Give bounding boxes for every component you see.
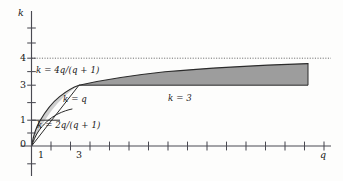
y-tick-label-4: 4: [20, 53, 26, 63]
x-tick-label-1: 1: [38, 150, 44, 160]
plot-canvas: [0, 0, 343, 181]
y-axis-label: k: [18, 8, 24, 18]
annotation-upper-curve: k = 4q/(q + 1): [36, 66, 99, 75]
x-tick-label-3: 3: [76, 150, 82, 160]
x-axis-label: q: [320, 150, 326, 160]
annotation-band: k = 3: [168, 94, 192, 103]
plot-figure: k q 4 3 1 0 1 3 k = 4q/(q + 1) k = q k =…: [0, 0, 343, 181]
annotation-lower-curve: k = 2q/(q + 1): [37, 121, 100, 130]
y-tick-label-3: 3: [20, 80, 26, 90]
y-tick-label-0: 0: [20, 139, 26, 149]
y-tick-label-1: 1: [20, 115, 26, 125]
band-shaded-region: [79, 64, 308, 86]
annotation-diagonal: k = q: [63, 95, 87, 104]
